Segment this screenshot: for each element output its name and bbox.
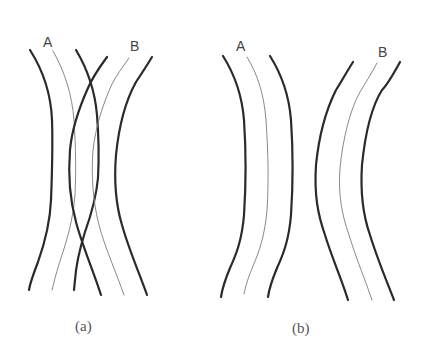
band-a-label: A	[43, 34, 53, 50]
band-b-label: B	[378, 44, 387, 60]
band-b-right-edge	[115, 57, 152, 295]
band-b-centerline	[339, 63, 377, 300]
band-a-separated	[221, 56, 293, 297]
band-b-overlapping	[69, 57, 152, 295]
band-b-label: B	[130, 38, 139, 54]
beam-diagram: A B (a) A B (b)	[0, 0, 421, 354]
panel-a: A B (a)	[29, 34, 152, 335]
band-a-centerline	[52, 51, 76, 290]
band-a-left-edge	[29, 50, 52, 290]
panel-a-caption: (a)	[75, 318, 92, 335]
band-b-left-edge	[69, 57, 107, 295]
band-a-left-edge	[221, 56, 246, 297]
band-a-centerline	[244, 57, 268, 294]
band-a-label: A	[236, 38, 246, 54]
band-b-right-edge	[361, 62, 400, 300]
panel-b-caption: (b)	[292, 320, 310, 337]
panel-b: A B (b)	[221, 38, 400, 337]
band-b-separated	[315, 62, 400, 300]
band-b-left-edge	[315, 62, 353, 300]
band-a-right-edge	[268, 56, 293, 297]
